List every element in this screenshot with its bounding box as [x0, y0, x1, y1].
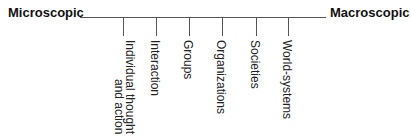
category-label-world-systems: World-systems	[281, 40, 292, 119]
tick-organizations	[222, 17, 223, 36]
category-label-individual: Individual thoughtand action	[113, 40, 135, 134]
macroscopic-label: Macroscopic	[330, 6, 409, 20]
category-label-societies: Societies	[249, 40, 260, 89]
category-label-interaction: Interaction	[149, 40, 160, 96]
microscopic-label: Microscopic	[8, 6, 84, 20]
category-label-organizations: Organizations	[215, 40, 226, 114]
scale-axis-line	[80, 17, 326, 18]
tick-world-systems	[288, 17, 289, 36]
category-label-groups: Groups	[182, 40, 193, 79]
category-label-text: Groups	[181, 40, 195, 79]
tick-groups	[189, 17, 190, 36]
tick-interaction	[156, 17, 157, 36]
category-label-text: Interaction	[148, 40, 162, 96]
category-label-text: Societies	[248, 40, 262, 89]
tick-individual	[123, 17, 124, 36]
category-label-text: Organizations	[214, 40, 228, 114]
category-label-text: World-systems	[280, 40, 294, 119]
tick-societies	[256, 17, 257, 36]
